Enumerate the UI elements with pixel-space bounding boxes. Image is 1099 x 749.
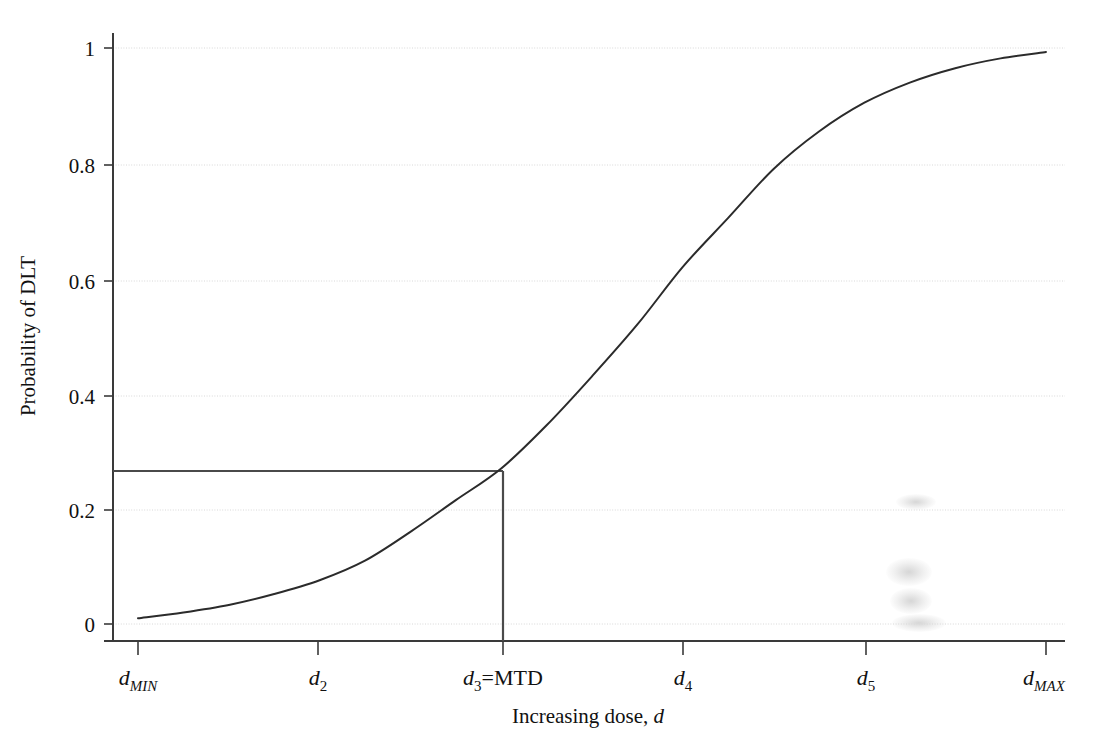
y-axis-ticks xyxy=(104,48,113,624)
figure-dose-toxicity-curve: 1 0.8 0.6 0.4 0.2 0 dMIN d2 d3=MTD d4 d5 xyxy=(0,0,1099,749)
x-tick-label-dmax: dMAX xyxy=(1023,665,1066,694)
x-tick-sub-d2: 2 xyxy=(320,678,328,694)
y-tick-label-0: 0 xyxy=(85,613,96,637)
x-tick-labels: dMIN d2 d3=MTD d4 d5 dMAX xyxy=(119,665,1066,694)
y-tick-label-0.2: 0.2 xyxy=(69,499,95,523)
mtd-reference-lines xyxy=(113,471,503,641)
x-axis-title: Increasing dose, d xyxy=(512,704,665,728)
x-tick-suffix-mtd: =MTD xyxy=(482,665,543,690)
x-tick-sub-d3: 3 xyxy=(474,678,482,694)
x-tick-sub-d4: 4 xyxy=(685,678,693,694)
y-tick-label-0.8: 0.8 xyxy=(69,154,95,178)
x-tick-label-dmin: dMIN xyxy=(119,665,158,694)
x-axis-title-text: Increasing dose, xyxy=(512,704,654,728)
y-axis-title: Probability of DLT xyxy=(16,256,40,416)
y-tick-label-0.6: 0.6 xyxy=(69,270,95,294)
x-tick-label-d5: d5 xyxy=(857,665,876,694)
x-tick-sub-d5: 5 xyxy=(868,678,876,694)
x-tick-label-d4: d4 xyxy=(674,665,693,694)
x-tick-sub-dmin: MIN xyxy=(129,678,158,694)
x-tick-label-d3-mtd: d3=MTD xyxy=(463,665,543,694)
chart-canvas: 1 0.8 0.6 0.4 0.2 0 dMIN d2 d3=MTD d4 d5 xyxy=(0,0,1099,749)
x-tick-sub-dmax: MAX xyxy=(1033,678,1066,694)
x-axis-ticks xyxy=(138,641,1046,655)
y-tick-label-1: 1 xyxy=(85,37,96,61)
y-tick-labels: 1 0.8 0.6 0.4 0.2 0 xyxy=(69,37,96,637)
y-tick-label-0.4: 0.4 xyxy=(69,385,96,409)
x-tick-label-d2: d2 xyxy=(309,665,328,694)
dose-toxicity-curve xyxy=(138,52,1046,618)
x-axis-title-var: d xyxy=(654,704,665,728)
gridlines xyxy=(113,48,1065,624)
